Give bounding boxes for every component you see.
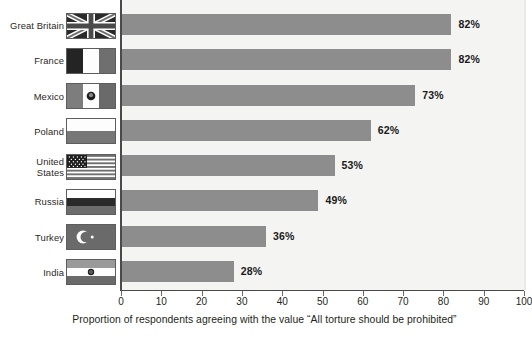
flag-turkey-icon <box>66 224 116 250</box>
chart-row: Great Britain 82% <box>0 8 529 43</box>
bar-rows: Great Britain 82%France 82%Mexico 73%Pol… <box>0 8 529 290</box>
country-label: Great Britain <box>1 8 64 43</box>
bar <box>121 155 335 176</box>
x-axis-tick <box>282 291 283 296</box>
bar <box>121 14 451 35</box>
bar <box>121 85 415 106</box>
bar-value-label: 62% <box>378 120 399 141</box>
bar-value-label: 82% <box>458 49 479 70</box>
chart-row: United States 53% <box>0 149 529 184</box>
flag-france-icon <box>66 48 116 74</box>
x-axis-tick-label: 70 <box>398 296 409 307</box>
x-axis-tick-label: 60 <box>357 296 368 307</box>
flag-india-icon <box>66 259 116 285</box>
x-axis-tick <box>242 291 243 296</box>
bar-value-label: 28% <box>241 261 262 282</box>
country-label: Mexico <box>1 79 64 114</box>
bar <box>121 190 318 211</box>
x-axis-tick-label: 100 <box>516 296 532 307</box>
bar-value-label: 82% <box>458 14 479 35</box>
x-axis-tick <box>443 291 444 296</box>
bar <box>121 49 451 70</box>
bar-value-label: 53% <box>342 155 363 176</box>
bar-value-label: 73% <box>422 85 443 106</box>
x-axis-tick <box>161 291 162 296</box>
chart-row: India 28% <box>0 255 529 290</box>
x-axis-tick-label: 10 <box>156 296 167 307</box>
x-axis-tick-label: 80 <box>438 296 449 307</box>
x-axis-tick-label: 90 <box>478 296 489 307</box>
country-label: United States <box>1 149 64 184</box>
x-axis-tick <box>121 291 122 296</box>
flag-united-states-icon <box>66 154 116 180</box>
x-axis-tick-label: 20 <box>196 296 207 307</box>
bar-value-label: 49% <box>325 190 346 211</box>
country-label: India <box>1 255 64 290</box>
x-axis-tick <box>363 291 364 296</box>
x-axis-tick <box>484 291 485 296</box>
country-label: France <box>1 43 64 78</box>
chart-row: Turkey 36% <box>0 220 529 255</box>
x-axis-tick <box>323 291 324 296</box>
chart-row: Russia 49% <box>0 184 529 219</box>
x-axis-tick-label: 40 <box>277 296 288 307</box>
x-axis-tick-label: 30 <box>236 296 247 307</box>
country-label: Turkey <box>1 220 64 255</box>
x-axis-caption: Proportion of respondents agreeing with … <box>0 314 529 325</box>
chart-row: Mexico 73% <box>0 79 529 114</box>
flag-mexico-icon <box>66 83 116 109</box>
x-axis-tick-label: 0 <box>118 296 124 307</box>
bar <box>121 261 234 282</box>
chart-row: France 82% <box>0 43 529 78</box>
x-axis-tick <box>403 291 404 296</box>
bar-value-label: 36% <box>273 226 294 247</box>
y-axis-line <box>120 0 122 291</box>
chart-row: Poland 62% <box>0 114 529 149</box>
country-label: Poland <box>1 114 64 149</box>
flag-poland-icon <box>66 118 116 144</box>
flag-russia-icon <box>66 189 116 215</box>
country-label: Russia <box>1 184 64 219</box>
flag-great-britain-icon <box>66 13 116 39</box>
x-axis-tick <box>202 291 203 296</box>
bar <box>121 120 371 141</box>
x-axis-tick <box>524 291 525 296</box>
bar <box>121 226 266 247</box>
x-axis-tick-label: 50 <box>317 296 328 307</box>
